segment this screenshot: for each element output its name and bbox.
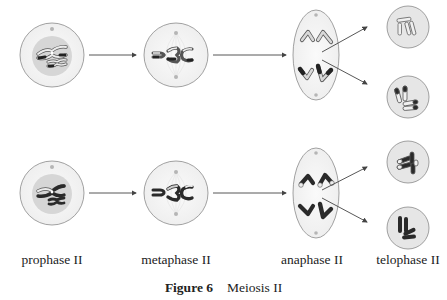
centriole	[314, 93, 318, 97]
centriole	[174, 170, 178, 174]
metaphase-cell-top	[144, 23, 208, 87]
prophase-cell-top	[20, 23, 84, 87]
centriole	[174, 31, 178, 35]
figure-title: Meiosis II	[227, 280, 282, 295]
cell-membrane	[387, 76, 429, 118]
stage-label-anaphase: anaphase II	[281, 252, 343, 268]
centriole	[174, 75, 178, 79]
cell-membrane	[293, 148, 339, 238]
centriole	[314, 231, 318, 235]
centriole	[50, 27, 54, 31]
centriole	[50, 165, 54, 169]
centriole	[174, 212, 178, 216]
metaphase-cell-bottom	[144, 161, 208, 225]
prophase-cell-bottom	[20, 161, 84, 225]
telophase-cell-top-2	[387, 76, 429, 118]
figure-number: Figure 6	[165, 280, 213, 295]
stage-label-prophase: prophase II	[21, 252, 82, 268]
anaphase-cell-top	[293, 10, 339, 100]
telophase-cell-bottom-2	[387, 207, 429, 249]
centriole	[314, 151, 318, 155]
anaphase-cell-bottom	[293, 148, 339, 238]
stage-label-metaphase: metaphase II	[141, 252, 210, 268]
telophase-cell-bottom-1	[387, 141, 429, 183]
stage-label-telophase: telophase II	[376, 252, 439, 268]
telophase-cell-top-1	[387, 6, 429, 48]
meiosis-ii-diagram	[0, 0, 447, 250]
centriole	[314, 13, 318, 17]
cell-membrane	[293, 10, 339, 100]
cell-membrane	[387, 141, 429, 183]
figure-caption: Figure 6Meiosis II	[0, 280, 447, 296]
